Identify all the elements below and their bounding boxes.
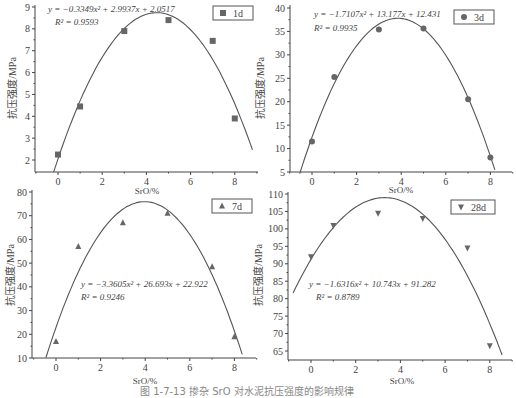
y-tick-label: 9 — [25, 2, 30, 13]
data-point — [464, 246, 470, 252]
legend: 28d — [451, 200, 495, 214]
x-tick-label: 8 — [487, 364, 492, 375]
y-tick-label: 40 — [17, 281, 27, 292]
data-point — [309, 139, 315, 145]
y-tick-label: 25 — [275, 73, 285, 84]
data-point — [120, 219, 126, 225]
legend-marker — [461, 14, 467, 20]
r-squared: R² = 0.8789 — [315, 292, 360, 302]
y-tick-label: 40 — [275, 3, 285, 14]
fit-equation: y = −1.6316x² + 10.743x + 91.282 — [308, 279, 436, 289]
x-tick-label: 6 — [443, 176, 448, 187]
x-tick-label: 6 — [443, 364, 448, 375]
y-axis-label: 抗压强度/MPa — [4, 244, 16, 306]
fit-curve — [293, 198, 502, 355]
legend-label: 28d — [471, 202, 486, 213]
data-point — [53, 338, 59, 344]
y-tick-label: 15 — [275, 120, 285, 131]
x-tick-label: 8 — [232, 176, 237, 187]
figure-caption: 图 1-7-13 掺杂 SrO 对水泥抗压强度的影响规律 — [140, 383, 354, 398]
legend-label: 7d — [232, 201, 242, 212]
y-tick-label: 20 — [275, 96, 285, 107]
y-tick-label: 2 — [25, 155, 30, 166]
legend: 3d — [454, 10, 494, 24]
chart-28d: 6570758085909510010511002468SrO/%抗压强度/MP… — [252, 189, 512, 387]
chart-7d: 102030405060708002468SrO/%抗压强度/MPay = −3… — [4, 187, 257, 387]
y-tick-label: 10 — [17, 353, 27, 364]
x-tick-label: 4 — [143, 362, 148, 373]
y-tick-label: 70 — [273, 328, 283, 339]
data-point — [210, 38, 216, 44]
x-tick-label: 4 — [398, 364, 403, 375]
data-point — [55, 152, 61, 158]
data-point — [209, 263, 215, 269]
r-squared: R² = 0.9246 — [80, 292, 125, 302]
fit-equation: y = −0.3349x² + 2.9937x + 2.0517 — [47, 4, 175, 14]
y-tick-label: 65 — [273, 346, 283, 357]
y-tick-label: 75 — [273, 311, 283, 322]
y-tick-label: 100 — [268, 223, 283, 234]
data-point — [331, 74, 337, 80]
y-tick-label: 80 — [17, 187, 27, 198]
x-tick-label: 2 — [100, 176, 105, 187]
y-axis-label: 抗压强度/MPa — [6, 57, 18, 119]
y-tick-label: 4 — [25, 111, 30, 122]
y-tick-label: 95 — [273, 241, 283, 252]
x-tick-label: 0 — [309, 364, 314, 375]
data-point — [121, 28, 127, 34]
y-tick-label: 70 — [17, 210, 27, 221]
data-point — [77, 103, 83, 109]
y-tick-label: 30 — [17, 305, 27, 316]
legend-label: 3d — [474, 12, 484, 23]
y-tick-label: 105 — [268, 206, 283, 217]
x-tick-label: 6 — [187, 362, 192, 373]
x-axis-label: SrO/% — [390, 376, 415, 386]
data-point — [465, 96, 471, 102]
x-tick-label: 0 — [310, 176, 315, 187]
y-tick-label: 85 — [273, 276, 283, 287]
data-point — [165, 210, 171, 216]
x-tick-label: 2 — [353, 364, 358, 375]
data-point — [487, 154, 493, 160]
y-tick-label: 110 — [268, 189, 283, 200]
y-tick-label: 8 — [25, 23, 30, 34]
chart-3d: 51015202530354002468SrO/%抗压强度/MPay = −1.… — [254, 3, 513, 196]
x-axis-label: SrO/% — [389, 185, 414, 195]
y-axis-label: 抗压强度/MPa — [254, 57, 266, 119]
data-point — [75, 243, 81, 249]
fit-curve — [54, 13, 253, 173]
x-axis-label: SrO/% — [135, 186, 160, 196]
fit-equation: y = −1.7107x² + 13.177x + 12.431 — [313, 9, 441, 19]
y-tick-label: 20 — [17, 329, 27, 340]
data-point — [166, 17, 172, 23]
fit-equation: y = −3.3605x² + 26.693x + 22.922 — [80, 279, 208, 289]
data-point — [375, 211, 381, 217]
y-tick-label: 80 — [273, 293, 283, 304]
y-tick-label: 5 — [280, 167, 285, 178]
y-tick-label: 10 — [275, 143, 285, 154]
chart-1d: 2345678902468SrO/%抗压强度/MPay = −0.3349x² … — [6, 2, 258, 197]
data-point — [420, 216, 426, 222]
x-tick-label: 0 — [54, 362, 59, 373]
x-tick-label: 0 — [56, 176, 61, 187]
r-squared: R² = 0.9593 — [54, 17, 99, 27]
x-tick-label: 6 — [188, 176, 193, 187]
legend-marker — [220, 10, 226, 16]
y-tick-label: 50 — [17, 258, 27, 269]
y-tick-label: 90 — [273, 258, 283, 269]
legend-label: 1d — [233, 8, 243, 19]
data-point — [308, 254, 314, 260]
y-tick-label: 35 — [275, 26, 285, 37]
x-tick-label: 8 — [232, 362, 237, 373]
y-tick-label: 6 — [25, 67, 30, 78]
fit-curve — [300, 18, 495, 173]
legend: 1d — [213, 6, 253, 20]
y-tick-label: 60 — [17, 234, 27, 245]
y-axis-label: 抗压强度/MPa — [252, 244, 264, 306]
data-point — [421, 26, 427, 32]
r-squared: R² = 0.9935 — [313, 23, 358, 33]
x-tick-label: 2 — [98, 362, 103, 373]
x-tick-label: 2 — [354, 176, 359, 187]
y-tick-label: 5 — [25, 89, 30, 100]
